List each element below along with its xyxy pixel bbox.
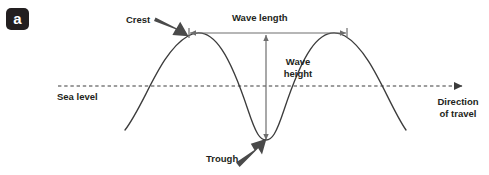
wave-height-label-line1: Wave [286, 56, 310, 67]
wave-diagram-figure: a [0, 0, 489, 175]
crest-pointer-arrow [154, 18, 189, 37]
wave-height-label: Waveheight [275, 56, 321, 79]
direction-label-line1: Direction [437, 96, 478, 107]
trough-arrow-shape [236, 139, 267, 167]
crest-arrow-shape [154, 18, 189, 37]
trough-pointer-arrow [236, 139, 267, 167]
wave-length-label: Wave length [232, 12, 288, 24]
sea-level-label: Sea level [57, 91, 98, 103]
wave-height-label-line2: height [284, 68, 313, 79]
trough-label: Trough [206, 153, 238, 165]
crest-label: Crest [126, 14, 150, 26]
direction-of-travel-label: Directionof travel [430, 96, 486, 119]
wave-diagram-canvas [0, 0, 489, 175]
direction-label-line2: of travel [440, 108, 477, 119]
